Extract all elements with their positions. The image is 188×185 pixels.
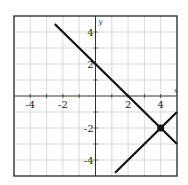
y-tick-label: -2: [84, 123, 94, 134]
y-tick-label: 4: [87, 27, 93, 38]
x-tick-label: -2: [58, 99, 68, 110]
y-tick-label: -4: [84, 155, 94, 166]
x-tick-label: -4: [25, 99, 35, 110]
x-tick-label: 4: [158, 99, 164, 110]
coordinate-plane-chart: -4-22442-2-4 x y: [0, 0, 188, 185]
intersection-dot: [157, 125, 164, 132]
intersection-point: [157, 125, 164, 132]
x-tick-label: 2: [125, 99, 131, 110]
x-axis-label: x: [174, 87, 178, 95]
line-series: [115, 112, 177, 173]
y-axis-label: y: [98, 18, 104, 26]
axes: [14, 16, 177, 176]
